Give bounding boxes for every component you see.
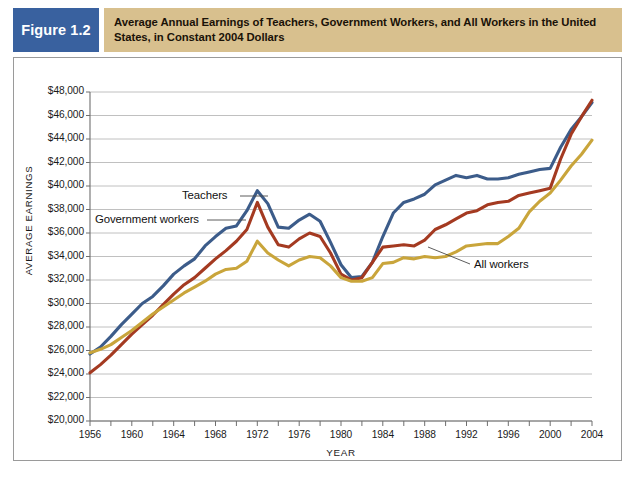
chart-frame (13, 57, 622, 461)
figure-number-label: Figure 1.2 (21, 22, 91, 38)
figure-title: Average Annual Earnings of Teachers, Gov… (104, 15, 622, 46)
figure-header: Figure 1.2 Average Annual Earnings of Te… (0, 8, 633, 56)
figure-title-bar: Average Annual Earnings of Teachers, Gov… (104, 8, 622, 52)
figure-number-badge: Figure 1.2 (13, 8, 99, 52)
